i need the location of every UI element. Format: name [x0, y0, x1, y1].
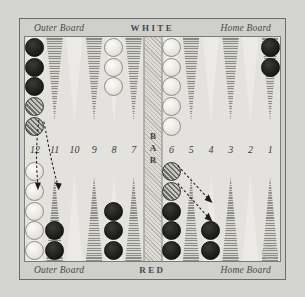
bar-label: BAR	[148, 131, 157, 167]
top-left-quadrant	[25, 37, 144, 149]
top-right-quadrant	[162, 37, 281, 149]
checker-dark[interactable]	[162, 221, 181, 240]
checker-stack	[45, 221, 65, 260]
checker-stack	[162, 162, 182, 260]
checker-dark[interactable]	[201, 221, 220, 240]
checker-dark[interactable]	[104, 241, 123, 260]
checker-light[interactable]	[25, 182, 44, 201]
bottom-outer-board-label: Outer Board	[34, 265, 84, 275]
checker-stack	[162, 38, 182, 136]
checker-dark[interactable]	[162, 241, 181, 260]
checker-dark[interactable]	[104, 221, 123, 240]
checker-moving[interactable]	[25, 97, 44, 116]
point-bottom-9[interactable]	[84, 149, 104, 261]
top-caption-strip: Outer Board WHITE Home Board	[20, 20, 285, 36]
red-player-label: RED	[139, 265, 165, 275]
point-top-2[interactable]	[241, 37, 261, 149]
checker-light[interactable]	[25, 162, 44, 181]
point-triangle	[222, 37, 239, 122]
checker-moving[interactable]	[162, 162, 181, 181]
point-triangle	[86, 37, 103, 122]
empty-point-marker	[262, 246, 279, 259]
checker-light[interactable]	[104, 38, 123, 57]
backgammon-board: Outer Board WHITE Home Board BAR 1211109…	[19, 18, 286, 280]
bar[interactable]: BAR	[143, 37, 162, 261]
checker-light[interactable]	[162, 77, 181, 96]
point-bottom-6[interactable]	[162, 149, 182, 261]
point-top-11[interactable]	[45, 37, 65, 149]
bottom-right-quadrant	[162, 149, 281, 261]
bottom-left-quadrant	[25, 149, 144, 261]
point-bottom-12[interactable]	[25, 149, 45, 261]
point-triangle	[125, 176, 142, 261]
checker-stack	[260, 38, 280, 77]
checker-dark[interactable]	[261, 58, 280, 77]
point-top-8[interactable]	[104, 37, 124, 149]
point-bottom-4[interactable]	[201, 149, 221, 261]
checker-stack	[25, 38, 45, 136]
checker-light[interactable]	[104, 77, 123, 96]
checker-moving[interactable]	[162, 182, 181, 201]
checker-dark[interactable]	[104, 202, 123, 221]
point-triangle	[66, 176, 83, 261]
point-bottom-11[interactable]	[45, 149, 65, 261]
point-triangle	[66, 37, 83, 122]
point-bottom-3[interactable]	[221, 149, 241, 261]
checker-dark[interactable]	[201, 241, 220, 260]
bottom-caption-strip: Outer Board RED Home Board	[20, 262, 285, 278]
checker-dark[interactable]	[162, 202, 181, 221]
point-triangle	[242, 176, 259, 261]
point-triangle	[125, 37, 142, 122]
checker-dark[interactable]	[45, 221, 64, 240]
point-top-10[interactable]	[65, 37, 85, 149]
point-top-3[interactable]	[221, 37, 241, 149]
point-bottom-7[interactable]	[124, 149, 144, 261]
checker-dark[interactable]	[25, 38, 44, 57]
point-top-7[interactable]	[124, 37, 144, 149]
checker-light[interactable]	[25, 202, 44, 221]
point-bottom-2[interactable]	[241, 149, 261, 261]
point-bottom-5[interactable]	[181, 149, 201, 261]
point-top-9[interactable]	[84, 37, 104, 149]
top-outer-board-label: Outer Board	[34, 23, 84, 33]
point-top-12[interactable]	[25, 37, 45, 149]
point-bottom-10[interactable]	[65, 149, 85, 261]
checker-moving[interactable]	[25, 117, 44, 136]
point-triangle	[183, 176, 200, 261]
top-home-board-label: Home Board	[221, 23, 271, 33]
point-triangle	[222, 176, 239, 261]
checker-stack	[201, 221, 221, 260]
playing-surface: BAR 121110987 654321	[24, 36, 281, 262]
point-triangle	[203, 37, 220, 122]
checker-light[interactable]	[25, 221, 44, 240]
checker-dark[interactable]	[261, 38, 280, 57]
checker-stack	[25, 162, 45, 260]
point-top-4[interactable]	[201, 37, 221, 149]
checker-stack	[104, 38, 124, 97]
checker-dark[interactable]	[25, 58, 44, 77]
checker-light[interactable]	[104, 58, 123, 77]
checker-light[interactable]	[25, 241, 44, 260]
checker-dark[interactable]	[45, 241, 64, 260]
point-bottom-8[interactable]	[104, 149, 124, 261]
checker-light[interactable]	[162, 38, 181, 57]
checker-light[interactable]	[162, 117, 181, 136]
checker-light[interactable]	[162, 97, 181, 116]
checker-stack	[104, 201, 124, 260]
bottom-home-board-label: Home Board	[221, 265, 271, 275]
checker-light[interactable]	[162, 58, 181, 77]
checker-dark[interactable]	[25, 77, 44, 96]
point-triangle	[46, 37, 63, 122]
point-triangle	[86, 176, 103, 261]
point-triangle	[242, 37, 259, 122]
point-bottom-1[interactable]	[260, 149, 280, 261]
point-top-1[interactable]	[260, 37, 280, 149]
point-top-6[interactable]	[162, 37, 182, 149]
white-player-label: WHITE	[131, 23, 175, 33]
point-triangle	[183, 37, 200, 122]
point-top-5[interactable]	[181, 37, 201, 149]
